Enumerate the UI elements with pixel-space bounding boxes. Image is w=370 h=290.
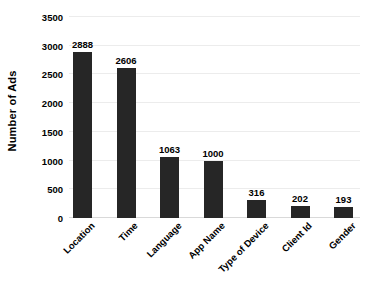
y-axis-tick-label: 3500 [19,12,63,23]
y-axis-tick-label: 0 [19,213,63,224]
y-axis-title-text: Number of Ads [6,70,18,151]
y-axis-tick-label: 3000 [19,40,63,51]
bar [204,161,223,218]
bar-value-label: 2606 [106,55,146,66]
x-axis-tick-label-text: Language [144,220,184,260]
gridline [69,73,360,74]
bar-value-label: 1000 [193,148,233,159]
x-axis-tick-label-text: Gender [326,220,357,251]
x-axis-tick-label: Language [144,220,184,260]
bar [247,200,266,218]
bar [160,157,179,218]
x-axis-tick-label-text: Client Id [279,220,313,254]
x-axis-tick-label-text: Location [61,220,97,256]
x-axis-tick-label: App Name [186,220,227,261]
y-axis-tick-label: 1000 [19,155,63,166]
bar [117,68,136,218]
bar-value-label: 193 [324,194,364,205]
gridline [69,45,360,46]
x-axis-tick-label: Gender [326,220,357,251]
bar-value-label: 316 [237,187,277,198]
x-axis-tick-label-text: App Name [186,220,227,261]
gridline [69,131,360,132]
x-axis-tick-label: Client Id [279,220,313,254]
y-axis-tick-label: 2500 [19,69,63,80]
gridline [69,102,360,103]
bar [73,52,92,218]
y-axis-tick-label: 2000 [19,98,63,109]
bar-value-label: 1063 [150,144,190,155]
y-axis-tick-label: 1500 [19,126,63,137]
bar [334,207,353,218]
x-axis-tick-labels: LocationTimeLanguageApp NameType of Devi… [69,220,360,290]
gridline [69,16,360,17]
y-axis-tick-label: 500 [19,184,63,195]
bar-value-label: 202 [280,193,320,204]
bar [291,206,310,218]
plot-area: 2888260610631000316202193 [69,17,360,218]
x-axis-tick-label-text: Time [116,220,139,243]
x-axis-tick-label: Location [61,220,97,256]
bar-value-label: 2888 [63,39,103,50]
x-axis-tick-label: Time [116,220,139,243]
bar-chart: Number of Ads 05001000150020002500300035… [0,0,370,290]
y-axis-tick-labels: 0500100015002000250030003500 [19,17,63,218]
